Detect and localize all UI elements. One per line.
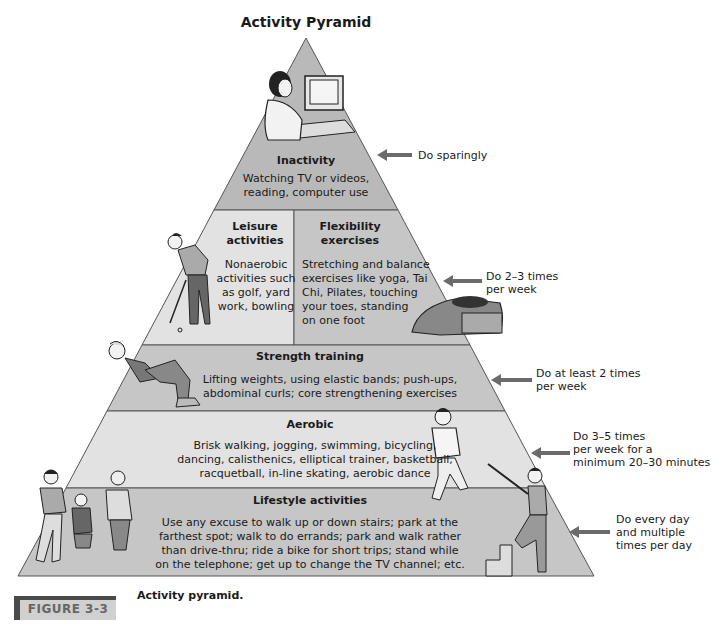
- flexibility-line: Chi, Pilates, touching: [302, 286, 452, 300]
- strength-line: abdominal curls; core strengthening exer…: [200, 387, 460, 401]
- recommendation-line: per week for a: [573, 443, 710, 456]
- recommendation-line: per week: [536, 380, 640, 393]
- recommendation-aerobic: Do 3–5 times per week for a minimum 20–3…: [573, 430, 710, 469]
- flexibility-title-line: Flexibility: [300, 220, 400, 234]
- aerobic-line: dancing, calisthenics, elliptical traine…: [170, 453, 460, 467]
- aerobic-line: racquetball, in-line skating, aerobic da…: [170, 467, 460, 481]
- leisure-line: activities such: [214, 272, 298, 286]
- recommendation-line: minimum 20–30 minutes: [573, 456, 710, 469]
- person-at-computer-illustration: [265, 71, 355, 140]
- recommendation-line: per week: [486, 283, 558, 296]
- lifestyle-description: Use any excuse to walk up or down stairs…: [150, 516, 470, 572]
- leisure-line: work, bowling: [214, 300, 298, 314]
- recommendation-inactivity: Do sparingly: [418, 149, 487, 162]
- arrow-left-icon: [578, 530, 610, 534]
- lifestyle-title: Lifestyle activities: [220, 494, 400, 507]
- strength-title: Strength training: [210, 350, 410, 363]
- arrow-left-icon: [540, 451, 570, 455]
- inactivity-title: Inactivity: [236, 154, 376, 167]
- aerobic-title: Aerobic: [250, 418, 370, 431]
- flexibility-line: your toes, standing: [302, 300, 452, 314]
- leisure-title-line: activities: [218, 234, 292, 248]
- recommendation-line: Do at least 2 times: [536, 367, 640, 380]
- recommendation-line: and multiple: [616, 526, 692, 539]
- arrow-left-icon: [500, 378, 532, 382]
- leisure-title: Leisure activities: [218, 220, 292, 248]
- inactivity-description: Watching TV or videos, reading, computer…: [226, 172, 386, 200]
- flexibility-line: on one foot: [302, 314, 452, 328]
- recommendation-line: times per day: [616, 539, 692, 552]
- flexibility-title: Flexibility exercises: [300, 220, 400, 248]
- flexibility-description: Stretching and balance exercises like yo…: [302, 258, 452, 328]
- lifestyle-line: than drive-thru; ride a bike for short t…: [150, 544, 470, 558]
- recommendation-line: Do 2–3 times: [486, 270, 558, 283]
- inactivity-line: Watching TV or videos,: [226, 172, 386, 186]
- recommendation-strength: Do at least 2 times per week: [536, 367, 640, 393]
- recommendation-line: Do 3–5 times: [573, 430, 710, 443]
- lifestyle-line: on the telephone; get up to change the T…: [150, 558, 470, 572]
- leisure-description: Nonaerobic activities such as golf, yard…: [214, 258, 298, 314]
- arrow-left-icon: [452, 279, 482, 283]
- flexibility-title-line: exercises: [300, 234, 400, 248]
- aerobic-description: Brisk walking, jogging, swimming, bicycl…: [170, 439, 460, 481]
- leisure-line: as golf, yard: [214, 286, 298, 300]
- arrow-left-icon: [386, 153, 412, 157]
- aerobic-line: Brisk walking, jogging, swimming, bicycl…: [170, 439, 460, 453]
- recommendation-line: Do every day: [616, 513, 692, 526]
- leisure-line: Nonaerobic: [214, 258, 298, 272]
- lifestyle-line: Use any excuse to walk up or down stairs…: [150, 516, 470, 530]
- strength-line: Lifting weights, using elastic bands; pu…: [200, 373, 460, 387]
- strength-description: Lifting weights, using elastic bands; pu…: [200, 373, 460, 401]
- flexibility-line: exercises like yoga, Tai: [302, 272, 452, 286]
- figure-caption: Activity pyramid.: [137, 589, 243, 602]
- leisure-title-line: Leisure: [218, 220, 292, 234]
- lifestyle-line: farthest spot; walk to do errands; park …: [150, 530, 470, 544]
- flexibility-line: Stretching and balance: [302, 258, 452, 272]
- recommendation-flexibility: Do 2–3 times per week: [486, 270, 558, 296]
- inactivity-line: reading, computer use: [226, 186, 386, 200]
- figure-label: FIGURE 3-3: [14, 596, 116, 620]
- recommendation-lifestyle: Do every day and multiple times per day: [616, 513, 692, 552]
